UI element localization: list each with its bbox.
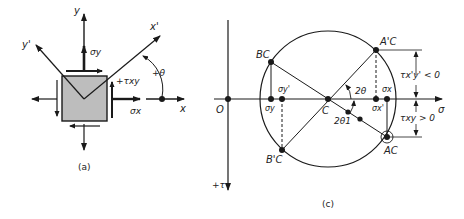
two-theta-label: 2θ (355, 86, 367, 96)
sigma-axis-label: σ (438, 104, 445, 115)
tick-sigma-y-prime (279, 96, 285, 102)
tau-xy-label: +τxy (116, 76, 140, 86)
two-theta-1-label: 2θ1 (334, 116, 351, 126)
center-label: C (322, 105, 329, 116)
mohr-circle-figure: y y' x' σy +τxy σx x +θ (a) (0, 0, 464, 219)
point-B-prime (279, 147, 285, 153)
tick-sigma-x-prime (373, 96, 379, 102)
two-theta-1-arc (350, 101, 354, 113)
A-prime-label: A'C (379, 36, 397, 47)
A-label: AC (383, 145, 398, 156)
origin-label: O (216, 104, 224, 115)
tau-xy-label: τxy > 0 (400, 113, 435, 123)
tau-xpyp-label: τx'y' < 0 (400, 70, 440, 80)
B-label: BC (256, 49, 270, 60)
sigma-y-tick-label: σy (265, 104, 275, 113)
mohr-circle-diagram: O C σ +τ BC A'C B'C AC σy σy' σx' σx 2θ … (212, 20, 445, 209)
sigma-x-prime-tick-label: σx' (372, 104, 384, 113)
center-point (325, 96, 331, 102)
point-A (384, 134, 390, 140)
sigma-y-prime-tick-label: σy' (278, 85, 290, 94)
y-label: y (73, 5, 81, 16)
sigma-y-label: σy (90, 47, 102, 57)
y-prime-label: y' (21, 39, 31, 50)
x-prime-label: x' (149, 21, 159, 32)
B-prime-label: B'C (266, 154, 283, 165)
caption-a: (a) (78, 162, 91, 172)
sigma-x-label: σx (130, 106, 142, 116)
caption-c: (c) (322, 199, 334, 209)
sigma-x-tick-label: σx (382, 85, 392, 94)
tick-sigma-x (384, 96, 390, 102)
stress-element-diagram: y y' x' σy +τxy σx x +θ (a) (21, 5, 186, 172)
two-theta-arc (346, 85, 351, 99)
angle-mark-2 (357, 116, 362, 121)
tau-axis-label: +τ (212, 180, 226, 190)
tick-sigma-y (268, 96, 274, 102)
point-A-prime (373, 47, 379, 53)
x-prime-axis (84, 36, 160, 99)
x-label: x (179, 103, 186, 114)
angle-mark-1 (345, 109, 350, 114)
origin-point (225, 96, 231, 102)
theta-label: +θ (152, 68, 166, 78)
